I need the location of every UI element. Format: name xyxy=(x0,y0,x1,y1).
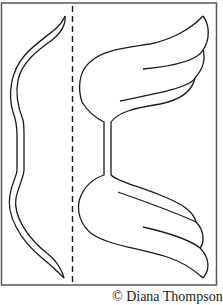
copyright-caption: © Diana Thompson xyxy=(112,289,223,305)
left-strip xyxy=(9,16,65,278)
wing-piece xyxy=(79,16,209,278)
frame-border xyxy=(2,3,217,285)
